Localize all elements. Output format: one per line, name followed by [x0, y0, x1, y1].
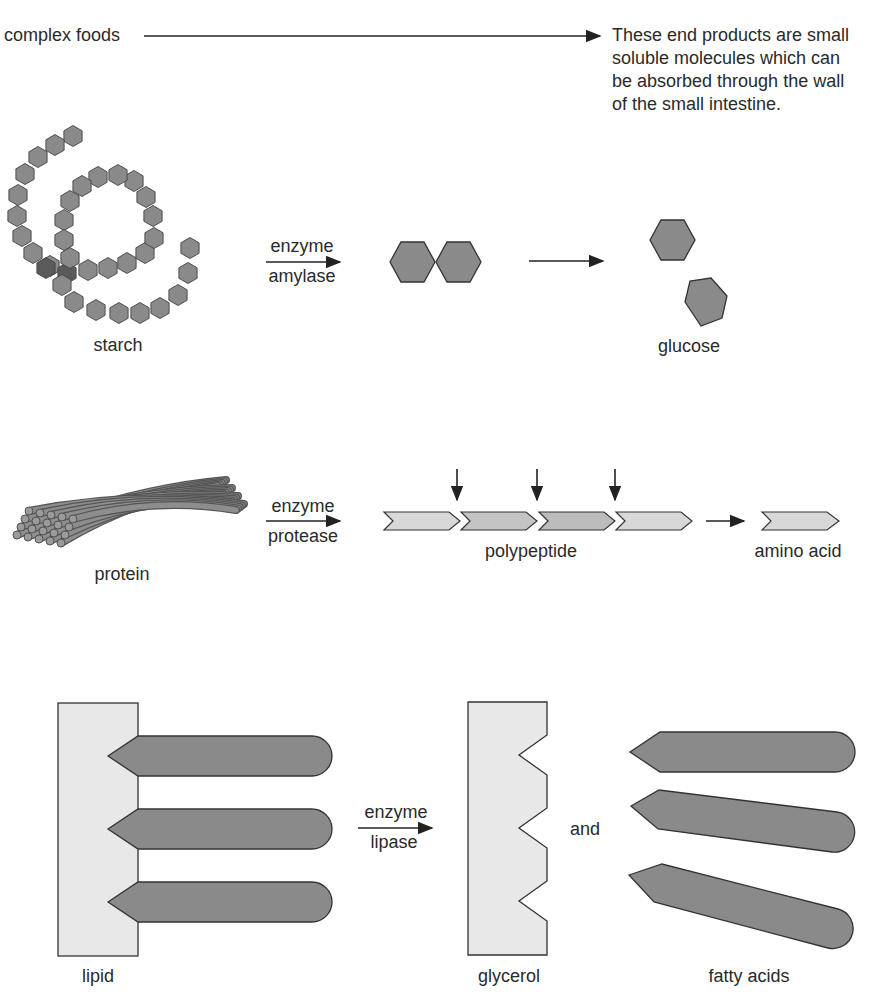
digestion-diagram	[0, 0, 870, 1003]
glycerol-icon	[468, 702, 547, 955]
starch-label: starch	[93, 335, 142, 356]
lipid-molecule-icon	[58, 703, 332, 956]
cleavage-arrows	[457, 469, 615, 500]
fatty-acids-icon	[629, 732, 855, 949]
protein-fibre-icon	[13, 480, 244, 547]
amino-acid-label: amino acid	[754, 541, 841, 562]
starch-molecule-icon	[8, 126, 199, 324]
fatty-acids-label: fatty acids	[708, 966, 789, 987]
polypeptide-chain-icon	[384, 512, 692, 530]
end-products-note: These end products are small soluble mol…	[612, 24, 852, 116]
glycerol-label: glycerol	[478, 966, 540, 987]
lipase-enzyme-name: lipase	[370, 832, 417, 853]
lipase-enzyme-top: enzyme	[364, 802, 427, 823]
protein-label: protein	[94, 564, 149, 585]
protease-enzyme-top: enzyme	[271, 496, 334, 517]
amylase-enzyme-top: enzyme	[270, 236, 333, 257]
glucose-icon	[650, 220, 727, 326]
disaccharide-icon	[390, 242, 481, 282]
lipid-label: lipid	[82, 966, 114, 987]
glucose-label: glucose	[658, 336, 720, 357]
complex-foods-label: complex foods	[4, 25, 120, 46]
protease-enzyme-name: protease	[268, 526, 338, 547]
polypeptide-label: polypeptide	[485, 541, 577, 562]
amylase-enzyme-name: amylase	[268, 266, 335, 287]
and-connector: and	[570, 819, 600, 840]
amino-acid-icon	[762, 512, 839, 530]
